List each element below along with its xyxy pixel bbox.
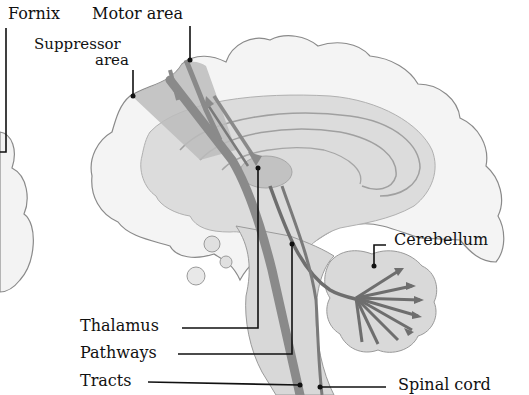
label-spinal-cord: Spinal cord <box>398 377 491 393</box>
optic-bulb <box>220 256 232 268</box>
mammillary-body <box>204 236 220 252</box>
label-tracts: Tracts <box>80 373 131 389</box>
label-motor-area: Motor area <box>92 6 183 22</box>
brain-diagram: Fornix Motor area Suppressor area Cerebe… <box>0 0 529 395</box>
label-cerebellum: Cerebellum <box>394 232 488 248</box>
label-suppressor-area-line1: Suppressor <box>34 36 121 52</box>
pituitary <box>187 267 205 285</box>
brain-illustration <box>0 0 529 395</box>
label-fornix: Fornix <box>8 6 60 22</box>
label-pathways: Pathways <box>80 345 157 361</box>
label-suppressor-area-line2: area <box>95 52 129 68</box>
label-thalamus: Thalamus <box>80 318 159 334</box>
adjacent-brain-outline <box>0 132 33 292</box>
